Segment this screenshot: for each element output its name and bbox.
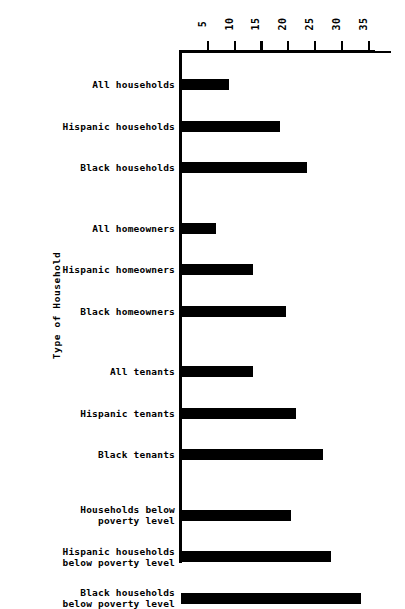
- x-axis-tick-label: 30: [332, 6, 342, 42]
- category-label: Black households: [80, 162, 175, 173]
- bar: [181, 306, 286, 317]
- bar: [181, 593, 361, 604]
- y-axis-title: Type of Household: [51, 206, 62, 406]
- category-label: All households: [92, 79, 175, 90]
- bar: [181, 551, 331, 562]
- bar: [181, 510, 291, 521]
- category-label: Black tenants: [98, 449, 175, 460]
- x-axis-tick-label: 5: [198, 6, 208, 42]
- x-axis-tick: [341, 41, 343, 50]
- x-axis-tick: [287, 41, 289, 50]
- x-axis-tick: [260, 41, 262, 50]
- x-axis-tick: [234, 41, 236, 50]
- x-axis-line-extension: [375, 51, 391, 53]
- x-axis-tick-label: 20: [278, 6, 288, 42]
- bar: [181, 223, 216, 234]
- x-axis-tick: [368, 41, 370, 50]
- category-label: Hispanic homeowners: [63, 264, 175, 275]
- bar: [181, 79, 229, 90]
- category-label: All homeowners: [92, 223, 175, 234]
- category-label: Black households below poverty level: [63, 587, 175, 609]
- bar: [181, 162, 307, 173]
- x-axis-tick-label: 25: [305, 6, 315, 42]
- x-axis-tick-label: 15: [251, 6, 261, 42]
- bar: [181, 121, 280, 132]
- category-label: Hispanic tenants: [80, 408, 175, 419]
- category-label: Households below poverty level: [80, 504, 175, 526]
- bar: [181, 366, 253, 377]
- bar: [181, 449, 323, 460]
- category-label: Black homeowners: [80, 306, 175, 317]
- x-axis-tick: [314, 41, 316, 50]
- x-axis-tick: [207, 41, 209, 50]
- bar: [181, 408, 296, 419]
- category-label: All tenants: [110, 366, 175, 377]
- x-axis-line: [179, 50, 375, 53]
- x-axis-tick-label: 35: [359, 6, 369, 42]
- category-label: Hispanic households below poverty level: [63, 546, 175, 568]
- category-label: Hispanic households: [63, 121, 175, 132]
- x-axis-tick-label: 10: [225, 6, 235, 42]
- bar: [181, 264, 253, 275]
